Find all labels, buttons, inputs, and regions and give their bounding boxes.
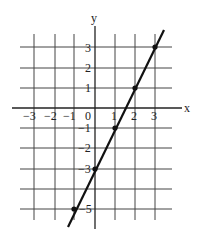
y-tick-label: 1 [85,81,91,95]
x-tick-label: −1 [63,109,76,123]
coordinate-graph: y x −3 −2 −1 0 1 2 3 3 2 1 −1 −2 −3 −5 [0,0,198,240]
y-tick-label: 3 [85,41,91,55]
x-axis-label: x [184,101,190,115]
y-tick-label: −3 [78,162,91,176]
x-tick-label: 3 [151,109,157,123]
y-axis-label: y [91,11,97,25]
x-tick-label: −2 [44,109,57,123]
x-tick-label: −3 [23,109,36,123]
y-tick-label: −2 [78,141,91,155]
x-tick-label: 2 [131,109,137,123]
y-tick-label: −1 [78,121,91,135]
y-tick-label: −5 [79,202,92,216]
y-tick-label: 2 [85,61,91,75]
x-tick-label: 1 [111,109,117,123]
